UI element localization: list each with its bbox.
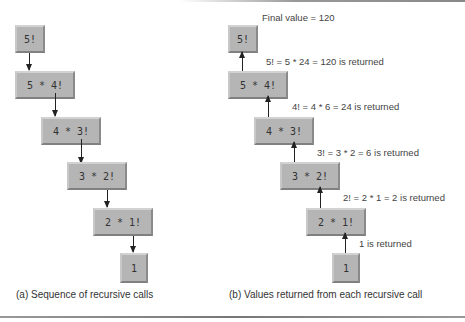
arrow-down-icon (133, 236, 134, 252)
arrow-up-icon (345, 233, 346, 255)
arrow-up-icon (242, 52, 243, 72)
return-box-5-factorial: 5! (228, 25, 258, 53)
arrow-up-icon (294, 142, 295, 164)
return-box-2-times-1-factorial: 2 * 1! (306, 208, 366, 236)
return-box-4-times-3-factorial: 4 * 3! (254, 117, 314, 145)
arrow-down-icon (55, 93, 56, 116)
call-box-4-times-3-factorial: 4 * 3! (41, 117, 101, 145)
arrow-down-icon (29, 53, 30, 70)
return-label-3: 3! = 3 * 2 = 6 is returned (317, 147, 419, 158)
caption-b: (b) Values returned from each recursive … (229, 289, 422, 300)
return-label-1: 1 is returned (359, 238, 412, 249)
arrow-up-icon (320, 187, 321, 209)
final-value-label: Final value = 120 (262, 12, 335, 23)
call-box-5-times-4-factorial: 5 * 4! (15, 71, 75, 99)
arrow-down-icon (81, 139, 82, 163)
call-box-5-factorial: 5! (15, 25, 45, 53)
caption-a: (a) Sequence of recursive calls (16, 289, 153, 300)
return-label-2: 2! = 2 * 1 = 2 is returned (343, 192, 445, 203)
return-box-5-times-4-factorial: 5 * 4! (228, 71, 288, 99)
call-box-3-times-2-factorial: 3 * 2! (67, 162, 127, 190)
return-box-1: 1 (332, 253, 360, 283)
top-rule (180, 0, 465, 2)
bottom-rule (0, 316, 465, 318)
arrow-down-icon (107, 190, 108, 207)
arrow-up-icon (268, 96, 269, 118)
return-label-5: 5! = 5 * 24 = 120 is returned (266, 56, 384, 67)
return-label-4: 4! = 4 * 6 = 24 is returned (292, 101, 399, 112)
call-box-2-times-1-factorial: 2 * 1! (93, 208, 153, 236)
return-box-3-times-2-factorial: 3 * 2! (280, 162, 340, 190)
call-box-1: 1 (120, 253, 148, 283)
